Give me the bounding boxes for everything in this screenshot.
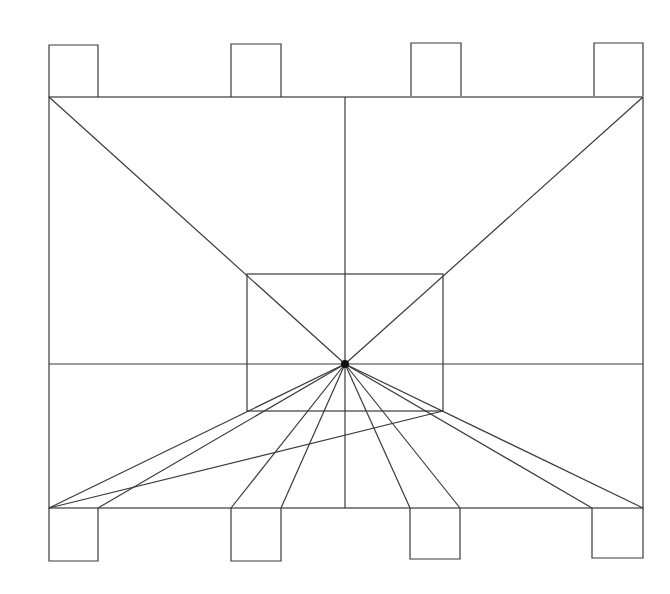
diagonal-top-right xyxy=(345,97,643,364)
perspective-diagram xyxy=(0,0,670,594)
diagonal-top-left xyxy=(49,97,345,364)
outer-frame xyxy=(49,97,643,508)
bottom-tab-3 xyxy=(410,508,460,559)
bottom-tab-2 xyxy=(231,508,281,561)
top-tab-1 xyxy=(49,45,98,97)
top-tab-3 xyxy=(411,43,461,96)
cross-line xyxy=(49,411,443,508)
converging-line-5 xyxy=(345,364,410,508)
top-tab-4 xyxy=(594,43,643,96)
converging-line-4 xyxy=(281,364,345,508)
bottom-tab-4 xyxy=(592,508,643,558)
bottom-tab-1 xyxy=(49,508,98,561)
converging-line-7 xyxy=(345,364,592,508)
converging-line-1 xyxy=(49,364,345,508)
converging-line-3 xyxy=(231,364,345,508)
top-tab-2 xyxy=(231,44,281,97)
vanishing-point xyxy=(341,360,349,368)
converging-line-8 xyxy=(345,364,643,508)
